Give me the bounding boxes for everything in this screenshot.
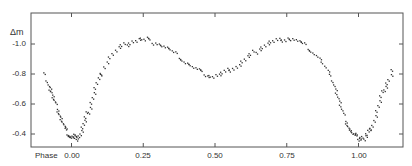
x-tick-label: 0.00	[64, 151, 80, 160]
y-tick-label: -1.0	[0, 39, 26, 48]
x-axis-label: Phase	[35, 151, 58, 160]
x-tick-label: 0.75	[279, 151, 295, 160]
y-axis-label: Δm	[10, 27, 24, 37]
light-curve-chart	[0, 0, 412, 166]
x-tick-label: 1.00	[351, 151, 367, 160]
x-tick-label: 0.50	[207, 151, 223, 160]
y-tick-label: -0.4	[0, 129, 26, 138]
y-tick-label: -0.8	[0, 69, 26, 78]
x-tick-label: 0.25	[135, 151, 151, 160]
data-points	[43, 37, 393, 142]
y-tick-label: -0.6	[0, 99, 26, 108]
